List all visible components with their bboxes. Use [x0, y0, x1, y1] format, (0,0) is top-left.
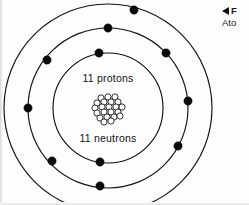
nucleon-21 [101, 119, 107, 125]
neutrons-label: 11 neutrons [80, 132, 137, 144]
electron-shell-2-2 [24, 104, 32, 112]
electron-shell-2-8 [104, 24, 112, 32]
electron-shell-1-2 [96, 158, 104, 166]
electron-shell-2-6 [184, 97, 192, 105]
electron-shell-2-1 [43, 56, 51, 64]
electron-shell-1-1 [95, 49, 103, 57]
figure-caption: F Ato [222, 5, 249, 29]
electron-shell-2-5 [174, 142, 182, 150]
bohr-model-svg: 11 protons 11 neutrons [0, 0, 249, 205]
electron-shell-2-4 [96, 182, 104, 190]
nucleon-20 [117, 113, 123, 119]
electron-shell-2-7 [162, 49, 170, 57]
electron-shell-2-3 [48, 157, 56, 165]
electron-shell-3-1 [130, 6, 138, 14]
protons-label: 11 protons [83, 72, 134, 84]
left-triangle-icon [222, 7, 229, 15]
nucleus-cluster [92, 94, 125, 125]
atom-diagram-figure: 11 protons 11 neutrons F Ato [0, 0, 249, 205]
nucleon-22 [108, 118, 114, 124]
caption-line2-text: Ato [222, 17, 249, 29]
caption-line1-text: F [231, 5, 237, 16]
caption-first-line: F [222, 5, 249, 17]
